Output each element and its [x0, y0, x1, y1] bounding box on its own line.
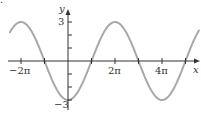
corner-mark: .: [0, 0, 3, 5]
y-axis: y 3 −3: [54, 3, 72, 110]
sinusoid-chart: . x −2π 2π 4π y 3 −3: [0, 0, 201, 113]
x-axis-label: x: [193, 64, 199, 75]
x-tick-label-neg2pi: −2π: [9, 65, 31, 76]
x-axis-arrow-icon: [194, 59, 200, 64]
y-tick-label-neg3: −3: [54, 99, 69, 110]
y-axis-arrow-icon: [66, 9, 71, 15]
x-tick-label-4pi: 4π: [155, 65, 168, 76]
x-tick-label-2pi: 2π: [108, 65, 121, 76]
x-axis: x −2π 2π 4π: [8, 58, 200, 76]
y-tick-label-3: 3: [58, 16, 64, 27]
y-axis-label: y: [58, 3, 65, 14]
